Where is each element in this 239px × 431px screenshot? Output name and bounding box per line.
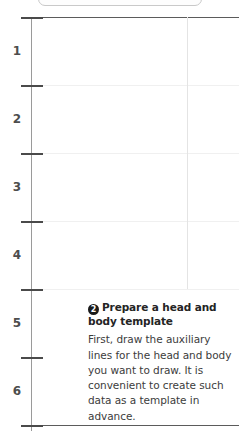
guideline-horizontal	[31, 289, 239, 290]
ruler-label-2: 2	[8, 113, 26, 125]
guideline-horizontal	[31, 221, 239, 222]
canvas-top-border	[31, 17, 239, 18]
ruler-tick	[21, 289, 43, 291]
ruler-label-5: 5	[8, 317, 26, 329]
ruler-tick	[21, 425, 43, 427]
ruler-label-3: 3	[8, 181, 26, 193]
ruler-axis-line	[31, 17, 32, 431]
guideline-horizontal	[31, 153, 239, 154]
ruler-label-1: 1	[8, 45, 26, 57]
guideline-horizontal	[31, 85, 239, 86]
canvas-bottom-border	[31, 425, 239, 426]
ruler-tick	[21, 221, 43, 223]
step-number-badge: 2	[88, 304, 99, 315]
page-root: 1 2 3 4 5 6 2Prepare a head and body tem…	[0, 0, 239, 431]
note-heading-line: 2Prepare a head and body template	[88, 301, 234, 328]
ruler-tick	[21, 17, 43, 19]
ruler-tick	[21, 357, 43, 359]
guideline-vertical	[187, 17, 188, 289]
annotation-note: 2Prepare a head and body template First,…	[88, 301, 234, 424]
note-body-text: First, draw the auxiliary lines for the …	[88, 332, 234, 423]
note-heading-text: Prepare a head and body template	[88, 301, 216, 327]
ruler-label-6: 6	[8, 385, 26, 397]
ruler-tick	[21, 153, 43, 155]
ruler-tick	[21, 85, 43, 87]
ruler-label-4: 4	[8, 249, 26, 261]
